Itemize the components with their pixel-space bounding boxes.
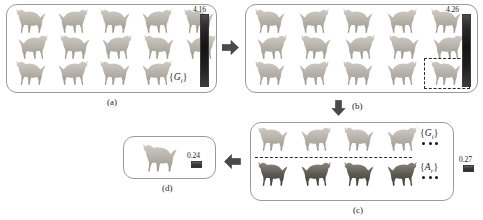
horse-thumbnail xyxy=(56,34,94,60)
horse-thumbnail xyxy=(339,60,377,86)
horse-thumbnail-dark xyxy=(340,161,378,187)
horse-thumbnail xyxy=(12,8,50,34)
horse-thumbnail xyxy=(339,8,377,34)
panel-c-row-bottom xyxy=(254,161,421,187)
panel-d-horse xyxy=(138,143,182,173)
horse-thumbnail xyxy=(297,126,335,152)
horse-thumbnail-dark xyxy=(297,161,335,187)
panel-b-colorbar xyxy=(462,14,471,87)
horse-thumbnail xyxy=(340,126,378,152)
panel-a-caption: (a) xyxy=(107,97,117,107)
horse-thumbnail xyxy=(138,8,176,34)
arrow-b-to-c xyxy=(331,100,346,120)
horse-thumbnail xyxy=(295,8,333,34)
horse-thumbnail xyxy=(251,60,289,86)
horse-thumbnail xyxy=(98,34,136,60)
horse-thumbnail xyxy=(385,34,423,60)
panel-c-colorbar xyxy=(463,165,474,172)
horse-thumbnail xyxy=(383,60,421,86)
panel-a-value: 4.16 xyxy=(193,5,206,14)
panel-a-row-3 xyxy=(12,60,176,86)
panel-c-caption: (c) xyxy=(353,205,363,215)
horse-thumbnail xyxy=(14,34,52,60)
panel-a-row-2 xyxy=(14,34,220,60)
figure-root: {{GGi} 4.16 (a) xyxy=(0,0,483,220)
horse-thumbnail-dark xyxy=(383,161,421,187)
horse-thumbnail-dark xyxy=(254,161,292,187)
panel-a-row-1 xyxy=(12,8,218,34)
horse-thumbnail xyxy=(297,34,335,60)
panel-b-value: 4.26 xyxy=(446,5,459,14)
horse-thumbnail xyxy=(383,126,421,152)
horse-thumbnail xyxy=(295,60,333,86)
horse-thumbnail xyxy=(54,60,92,86)
panel-c-divider xyxy=(255,157,412,158)
panel-d-caption: (d) xyxy=(162,183,173,193)
horse-thumbnail xyxy=(96,8,134,34)
panel-c-set-label-gi: {Gi} xyxy=(420,128,439,140)
panel-c-dots-top xyxy=(422,142,438,145)
panel-c-set-label-ar: {Ar} xyxy=(420,162,438,174)
panel-b-row-2 xyxy=(253,34,467,60)
horse-thumbnail xyxy=(254,126,292,152)
horse-thumbnail xyxy=(54,8,92,34)
horse-thumbnail xyxy=(253,34,291,60)
horse-thumbnail xyxy=(383,8,421,34)
panel-c-value: 0.27 xyxy=(459,155,472,164)
arrow-a-to-b xyxy=(222,40,239,59)
horse-thumbnail xyxy=(341,34,379,60)
panel-d-value: 0.24 xyxy=(187,151,200,160)
arrow-c-to-d xyxy=(224,154,241,173)
panel-c-row-top xyxy=(254,126,421,152)
panel-b-caption: (b) xyxy=(352,101,363,111)
panel-a-colorbar xyxy=(200,14,209,87)
panel-d-colorbar xyxy=(191,161,202,168)
horse-thumbnail xyxy=(12,60,50,86)
horse-thumbnail xyxy=(96,60,134,86)
horse-thumbnail xyxy=(251,8,289,34)
panel-a-set-label: {{GGi} xyxy=(169,72,188,84)
horse-thumbnail xyxy=(140,34,178,60)
panel-c-dots-bottom xyxy=(422,176,438,179)
panel-b-row-1 xyxy=(251,8,465,34)
